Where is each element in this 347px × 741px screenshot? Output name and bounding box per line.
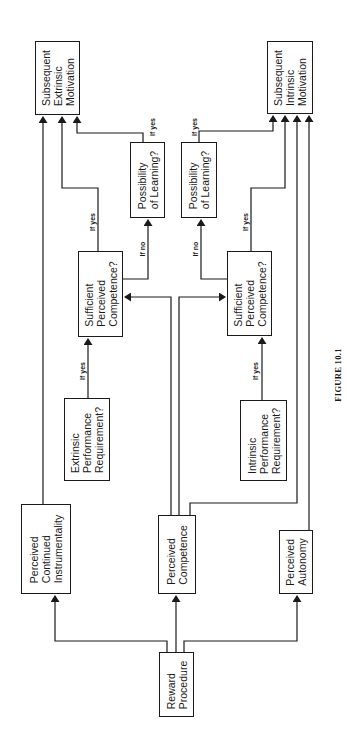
edge-possibility-intrinsic-yes [199, 116, 273, 142]
node-text-line: Possibility [187, 151, 199, 209]
motivation-flow-diagram: Subsequent Extrinsic Motivation Subseque… [0, 0, 347, 741]
node-text-line: Subsequent [39, 50, 51, 106]
node-text-line: Procedure [177, 660, 189, 708]
edge-reward-to-instrumentality [55, 596, 167, 652]
node-text-line: Instrumentality [52, 515, 64, 583]
figure-caption: FIGURE 10.1 [333, 348, 343, 401]
node-text-line: Motivation [296, 49, 308, 105]
node-sufficient-competence-extrinsic: Sufficient Perceived Competence? [78, 251, 123, 337]
node-text-line: Perceived [165, 525, 177, 585]
label-if-yes-possibility-intrinsic: If yes [191, 118, 198, 136]
node-text-line: of Learning? [148, 151, 160, 209]
node-text-line: Intrinsic [284, 49, 296, 105]
node-extrinsic-performance-requirement: Extrinsic Performance Requirement? [64, 398, 110, 481]
label-if-yes-extrinsic-requirement: If yes [79, 362, 86, 380]
node-text-line: Extrinsic [69, 407, 81, 473]
node-text-line: Possibility [135, 151, 147, 209]
node-text-line: Perceived [243, 261, 255, 326]
node-perceived-autonomy: Perceived Autonomy [279, 530, 313, 594]
edge-competence-to-sufficient-intrinsic [179, 297, 225, 515]
node-subsequent-extrinsic-motivation: Subsequent Extrinsic Motivation [35, 41, 80, 115]
node-text-line: Autonomy [296, 538, 308, 585]
node-text-line: of Learning? [199, 151, 211, 209]
node-text-line: Motivation [64, 50, 76, 106]
node-subsequent-intrinsic-motivation: Subsequent Intrinsic Motivation [267, 41, 313, 114]
node-text-line: Requirement? [93, 407, 105, 473]
node-reward-procedure: Reward Procedure [159, 652, 194, 717]
node-text-line: Perceived [28, 515, 40, 583]
node-text-line: Competence? [107, 261, 119, 326]
node-perceived-continued-instrumentality: Perceived Continued Instrumentality [21, 504, 71, 594]
node-text-line: Subsequent [272, 49, 284, 105]
edge-sufficient-intrinsic-no [201, 220, 227, 279]
node-sufficient-competence-intrinsic: Sufficient Perceived Competence? [227, 251, 272, 336]
node-text-line: Perceived [94, 261, 106, 326]
node-text-line: Continued [40, 515, 52, 583]
label-if-no-sufficient-extrinsic: If no [139, 242, 146, 257]
node-text-line: Sufficient [231, 261, 243, 326]
node-intrinsic-performance-requirement: Intrinsic Performance Requirement? [240, 400, 287, 481]
edge-reward-to-autonomy [184, 596, 297, 652]
node-text-line: Sufficient [82, 261, 94, 326]
node-text-line: Performance [81, 407, 93, 473]
edge-possibility-extrinsic-yes [77, 117, 143, 142]
label-if-yes-sufficient-extrinsic: If yes [89, 213, 96, 231]
node-possibility-of-learning-intrinsic: Possibility of Learning? [181, 142, 217, 218]
edge-competence-to-sufficient-extrinsic [125, 297, 171, 515]
node-text-line: Perceived [284, 538, 296, 585]
label-if-yes-intrinsic-requirement: If yes [252, 362, 259, 380]
node-possibility-of-learning-extrinsic: Possibility of Learning? [130, 142, 165, 218]
node-text-line: Extrinsic [51, 50, 63, 106]
node-text-line: Requirement? [270, 408, 282, 474]
node-text-line: Performance [257, 408, 269, 474]
label-if-no-sufficient-intrinsic: If no [192, 242, 199, 257]
node-text-line: Competence [177, 525, 189, 585]
node-text-line: Competence? [256, 261, 268, 326]
node-text-line: Reward [164, 660, 176, 708]
label-if-yes-sufficient-intrinsic: If yes [242, 213, 249, 231]
node-text-line: Intrinsic [245, 408, 257, 474]
edge-sufficient-intrinsic-yes [251, 116, 285, 251]
label-if-yes-possibility-extrinsic: If yes [149, 118, 156, 136]
node-perceived-competence: Perceived Competence [158, 515, 196, 594]
